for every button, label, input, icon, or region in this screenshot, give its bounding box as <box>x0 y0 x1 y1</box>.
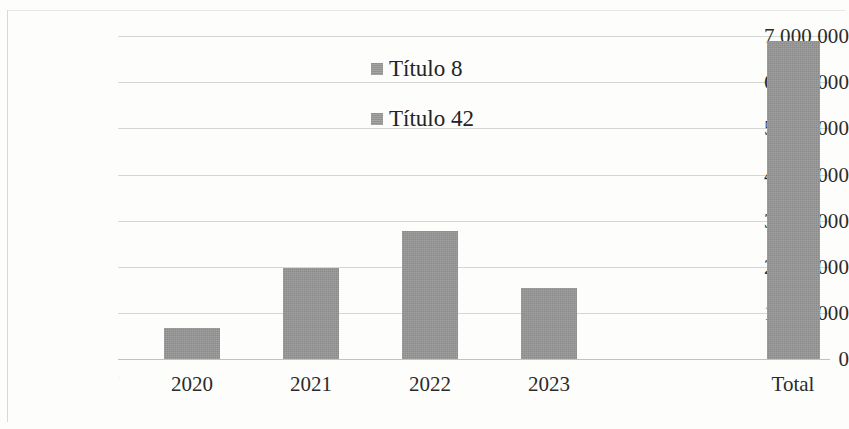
gridline-5000000 <box>118 128 830 129</box>
gridline-1000000 <box>118 313 830 314</box>
axis-line-zero <box>118 359 830 360</box>
bar-2021 <box>283 268 339 359</box>
plot-area: 7,000,000 6,000,000 5,000,000 4,000,000 … <box>0 0 849 429</box>
gridline-2000000 <box>118 267 830 268</box>
legend-label-titulo-8: Título 8 <box>389 57 462 80</box>
legend-entry-titulo-8: Título 8 <box>371 57 462 80</box>
x-tick-label-total: Total <box>743 372 843 396</box>
bar-chart-figure: 7,000,000 6,000,000 5,000,000 4,000,000 … <box>0 0 849 429</box>
gridline-6000000 <box>118 82 830 83</box>
bar-total <box>767 41 820 359</box>
x-tick-label-2022: 2022 <box>380 372 480 396</box>
bar-2020 <box>164 328 220 359</box>
gridline-7000000 <box>118 36 830 37</box>
gridline-4000000 <box>118 175 830 176</box>
bar-2022 <box>402 231 458 359</box>
legend-swatch-icon-titulo-42 <box>371 113 383 125</box>
x-tick-label-2020: 2020 <box>142 372 242 396</box>
legend-swatch-icon-titulo-8 <box>371 63 383 75</box>
legend-label-titulo-42: Título 42 <box>389 107 474 130</box>
x-tick-label-2023: 2023 <box>499 372 599 396</box>
bar-2023 <box>521 288 577 359</box>
x-tick-label-2021: 2021 <box>261 372 361 396</box>
legend-entry-titulo-42: Título 42 <box>371 107 474 130</box>
gridline-3000000 <box>118 221 830 222</box>
